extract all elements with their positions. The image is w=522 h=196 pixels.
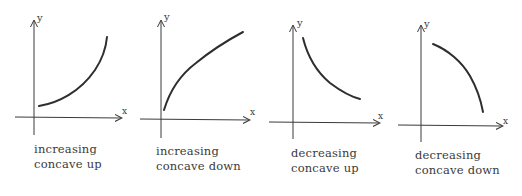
- concavity-diagram: y x y x y x y x increasi: [0, 0, 522, 196]
- caption-line-2: concave down: [415, 163, 500, 178]
- y-axis-label: y: [163, 11, 170, 22]
- curve-decreasing-concave-down: [433, 44, 483, 112]
- x-axis-label: x: [378, 111, 383, 121]
- x-axis-label: x: [250, 107, 255, 117]
- caption-decreasing-concave-up: decreasing concave up: [291, 146, 359, 176]
- x-axis-label: x: [503, 116, 508, 126]
- panel-decreasing-concave-down: y x: [398, 18, 508, 142]
- caption-line-2: concave down: [156, 159, 241, 174]
- caption-line-1: increasing: [156, 144, 241, 159]
- x-axis-label: x: [122, 106, 127, 116]
- x-axis: [269, 122, 379, 123]
- caption-line-2: concave up: [291, 161, 359, 176]
- x-axis: [15, 117, 121, 118]
- caption-increasing-concave-up: increasing concave up: [34, 142, 102, 172]
- curve-decreasing-concave-up: [303, 38, 360, 99]
- y-axis-label: y: [296, 17, 303, 28]
- panel-decreasing-concave-up: y x: [269, 17, 383, 139]
- caption-line-1: decreasing: [291, 146, 359, 161]
- panel-increasing-concave-up: y x: [15, 12, 127, 135]
- caption-line-1: increasing: [34, 142, 102, 157]
- y-axis-label: y: [423, 18, 430, 29]
- caption-decreasing-concave-down: decreasing concave down: [415, 148, 500, 178]
- caption-line-2: concave up: [34, 157, 102, 172]
- x-axis: [140, 119, 249, 120]
- y-axis-label: y: [36, 12, 43, 23]
- caption-line-1: decreasing: [415, 148, 500, 163]
- caption-increasing-concave-down: increasing concave down: [156, 144, 241, 174]
- x-axis: [398, 125, 502, 126]
- curve-increasing-concave-up: [39, 37, 107, 106]
- panel-increasing-concave-down: y x: [140, 11, 255, 138]
- curve-increasing-concave-down: [164, 32, 243, 110]
